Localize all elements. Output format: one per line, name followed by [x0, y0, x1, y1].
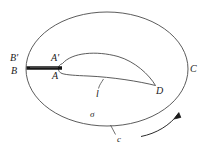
label-a-prime: A' — [51, 53, 59, 63]
label-c-upper: C — [190, 64, 197, 74]
label-b-prime: B' — [10, 53, 18, 63]
airfoil-profile — [58, 53, 155, 85]
label-c-lower: c — [117, 135, 121, 144]
label-l: l — [96, 89, 99, 99]
c-leader-line — [111, 125, 116, 135]
label-d: D — [156, 86, 163, 96]
label-a: A — [52, 71, 58, 81]
label-b: B — [11, 66, 17, 76]
l-leader-line — [99, 79, 104, 89]
circulation-arrow-head — [174, 113, 181, 119]
diagram-canvas — [0, 0, 209, 155]
label-sigma: σ — [90, 110, 94, 119]
airfoil-contour-diagram: B' B A' A C D l σ c — [0, 0, 209, 155]
circulation-arrow-shaft — [141, 114, 179, 137]
